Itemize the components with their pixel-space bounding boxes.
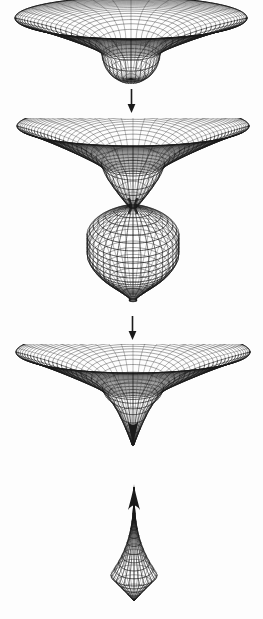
panel-detached-baby-universe [0, 472, 263, 612]
downward-arrow-1-icon [119, 86, 145, 116]
panel-necked-funnel-with-bulb [0, 118, 263, 310]
wormhole-pinchoff-figure: Wormhole pinch-off sequence [0, 0, 263, 619]
necked-funnel-wireframe [0, 118, 263, 310]
panel-shallow-funnel [0, 0, 263, 92]
downward-arrow-2-icon [120, 312, 146, 344]
baby-universe-wireframe [0, 472, 263, 612]
cusp-funnel-wireframe [0, 344, 263, 456]
shallow-funnel-wireframe [0, 0, 263, 92]
panel-pinched-cusp-funnel [0, 344, 263, 456]
